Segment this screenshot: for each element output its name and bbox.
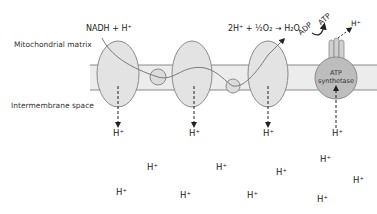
proton-label: H⁺ <box>116 187 127 197</box>
proton-label: H⁺ <box>332 128 343 138</box>
proton-label: H⁺ <box>189 128 200 138</box>
proton-label: H⁺ <box>147 162 158 172</box>
proton-label: H⁺ <box>180 190 191 200</box>
nadh-label: NADH + H⁺ <box>86 24 132 33</box>
proton-label: H⁺ <box>353 175 364 185</box>
proton-label: H⁺ <box>247 190 258 200</box>
proton-label: H⁺ <box>113 128 124 138</box>
atp-synthase-label: ATP synthetase <box>311 69 361 85</box>
proton-label: H⁺ <box>216 162 227 172</box>
atp-synthase-label-line2: synthetase <box>311 77 361 85</box>
proton-exit-arrow <box>338 29 350 38</box>
matrix-label: Mitochondrial matrix <box>14 40 92 49</box>
proton-label: H⁺ <box>320 154 331 164</box>
proton-label: H⁺ <box>263 128 274 138</box>
proton-label: H⁺ <box>276 167 287 177</box>
atp-synthase-label-line1: ATP <box>311 69 361 77</box>
adp-atp-arrow <box>312 26 324 35</box>
intermembrane-label: Intermembrane space <box>11 101 94 110</box>
proton-label: H⁺ <box>317 194 328 204</box>
oxygen-reaction-label: 2H⁺ + ½O₂ → H₂O <box>228 24 300 33</box>
proton-exit-label: H⁺ <box>351 19 361 28</box>
